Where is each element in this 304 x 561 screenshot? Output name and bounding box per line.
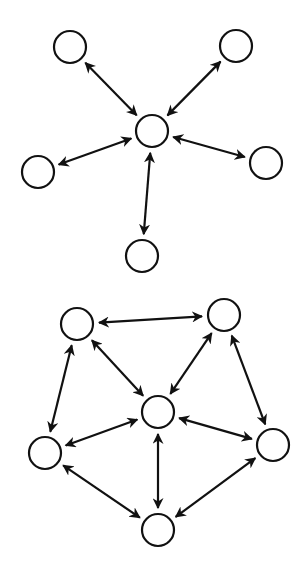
edge-center-bottom: [144, 153, 150, 234]
node-left: [29, 437, 61, 469]
edge-bottom-left: [63, 465, 140, 517]
node-center: [136, 115, 168, 147]
edge-center-top-left: [85, 63, 136, 116]
network-diagrams: [0, 0, 304, 561]
edge-center-top-right: [167, 62, 220, 116]
edge-center-left: [66, 420, 138, 446]
node-top-left: [54, 31, 86, 63]
star-topology-diagram: [22, 30, 282, 272]
node-right: [257, 429, 289, 461]
edge-center-top-left: [92, 340, 143, 396]
wheel-topology-diagram: [29, 299, 289, 546]
edge-right-bottom: [176, 458, 256, 517]
node-bottom: [142, 514, 174, 546]
node-top-left: [61, 308, 93, 340]
node-top-right: [220, 30, 252, 62]
node-center: [142, 396, 174, 428]
edge-left-top-left: [50, 345, 71, 431]
edge-center-right: [179, 418, 252, 439]
node-left: [22, 156, 54, 188]
node-right: [250, 147, 282, 179]
edge-center-left: [59, 138, 132, 164]
edge-center-top-right: [170, 333, 211, 394]
edge-top-right-right: [232, 336, 265, 425]
edge-top-left-top-right: [99, 316, 202, 322]
node-bottom: [126, 240, 158, 272]
node-top-right: [208, 299, 240, 331]
edge-center-right: [173, 137, 245, 157]
